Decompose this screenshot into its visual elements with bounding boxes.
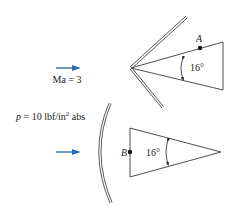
- lower-wedge: [130, 128, 221, 177]
- mach-number-label: Ma = 3: [53, 74, 82, 85]
- pressure-value: = 10 lbf/in: [21, 111, 66, 122]
- pressure-suffix: abs: [69, 111, 85, 122]
- point-b-marker: [128, 150, 132, 154]
- lower-angle-label: 16°: [146, 147, 160, 158]
- upper-oblique-shock: [130, 16, 188, 108]
- point-a-label: A: [195, 33, 203, 44]
- upper-angle-label: 16°: [190, 62, 204, 73]
- point-a-marker: [198, 46, 202, 50]
- lower-angle-arc: [166, 140, 168, 164]
- upper-angle-arc: [181, 58, 183, 79]
- lower-bow-shock: [99, 103, 112, 203]
- pressure-label: p = 10 lbf/in2 abs: [15, 110, 85, 122]
- upper-wedge: [131, 42, 223, 90]
- point-b-label: B: [121, 147, 127, 158]
- diagram-canvas: Ma = 3 A 16° p = 10 lbf/in2 abs B 16°: [0, 0, 234, 216]
